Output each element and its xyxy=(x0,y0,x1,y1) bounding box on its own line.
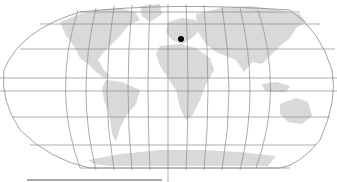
australia xyxy=(280,98,312,124)
indonesia xyxy=(262,82,290,92)
africa xyxy=(156,44,214,120)
asia xyxy=(196,6,306,72)
antarctica xyxy=(88,150,276,166)
location-marker-icon[interactable] xyxy=(178,36,184,42)
land-masses xyxy=(60,4,312,166)
world-map xyxy=(0,0,337,182)
